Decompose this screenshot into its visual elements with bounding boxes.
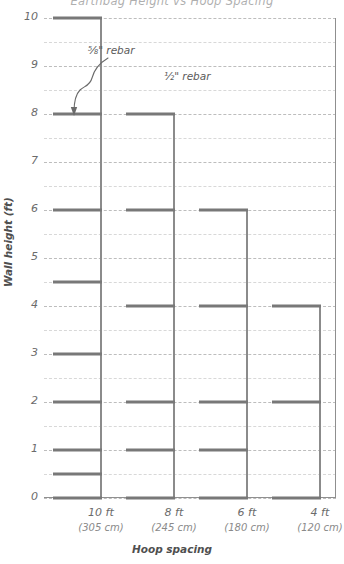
rebar-bar xyxy=(199,305,248,308)
y-axis-tick-0: 0 xyxy=(8,490,38,503)
rebar-bar xyxy=(199,449,248,452)
rebar-bar xyxy=(53,473,102,476)
annotation-rebar-five-eighths: ⅝" rebar xyxy=(88,44,135,56)
hoop-post xyxy=(246,210,248,498)
gridline-major xyxy=(44,162,336,163)
rebar-bar xyxy=(53,209,102,212)
gridline-major xyxy=(44,258,336,259)
rebar-bar xyxy=(53,17,102,20)
gridline-minor xyxy=(44,42,336,43)
gridline-minor xyxy=(44,186,336,187)
y-axis-tick-4: 4 xyxy=(8,298,38,311)
y-axis-tick-2: 2 xyxy=(8,394,38,407)
y-axis-tick-6: 6 xyxy=(8,202,38,215)
rebar-bar xyxy=(272,401,321,404)
rebar-bar xyxy=(126,401,175,404)
y-axis-tick-8: 8 xyxy=(8,106,38,119)
y-axis-tick-5: 5 xyxy=(8,250,38,263)
rebar-bar xyxy=(126,209,175,212)
y-axis-tick-10: 10 xyxy=(8,10,38,23)
rebar-bar xyxy=(126,449,175,452)
x-tick-metric: (120 cm) xyxy=(272,521,344,535)
gridline-minor xyxy=(44,426,336,427)
rebar-bar xyxy=(126,305,175,308)
rebar-bar xyxy=(272,305,321,308)
rebar-bar xyxy=(126,497,175,500)
x-axis-title: Hoop spacing xyxy=(0,543,344,555)
rebar-bar xyxy=(272,497,321,500)
rebar-bar xyxy=(199,209,248,212)
gridline-minor xyxy=(44,234,336,235)
plot-frame-right xyxy=(335,18,336,498)
y-axis-tick-7: 7 xyxy=(8,154,38,167)
annotation-arrow-icon xyxy=(64,56,112,120)
rebar-bar xyxy=(53,497,102,500)
y-axis-tick-9: 9 xyxy=(8,58,38,71)
gridline-minor xyxy=(44,138,336,139)
y-axis-title: Wall height (ft) xyxy=(2,182,14,302)
x-axis-tick-4-ft: 4 ft(120 cm) xyxy=(272,506,344,534)
annotation-rebar-one-half: ½" rebar xyxy=(164,70,211,82)
rebar-bar xyxy=(126,113,175,116)
rebar-bar xyxy=(199,401,248,404)
chart-canvas: Earthbag Height vs Hoop Spacing Wall hei… xyxy=(0,0,344,564)
rebar-bar xyxy=(199,497,248,500)
gridline-minor xyxy=(44,330,336,331)
x-tick-label: 4 ft xyxy=(272,506,344,521)
gridline-minor xyxy=(44,378,336,379)
rebar-bar xyxy=(53,401,102,404)
y-axis-tick-1: 1 xyxy=(8,442,38,455)
chart-title: Earthbag Height vs Hoop Spacing xyxy=(0,0,344,8)
y-axis-tick-3: 3 xyxy=(8,346,38,359)
rebar-bar xyxy=(53,449,102,452)
rebar-bar xyxy=(53,281,102,284)
rebar-bar xyxy=(53,353,102,356)
